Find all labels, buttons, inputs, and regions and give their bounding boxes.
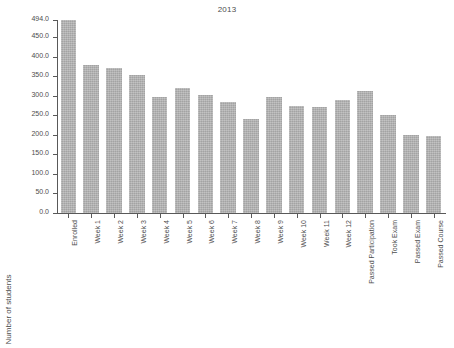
x-axis-label-slot: Week 10 bbox=[285, 220, 308, 312]
y-axis-tick: 0.0 bbox=[0, 213, 57, 214]
x-axis-tick bbox=[331, 214, 354, 219]
y-axis-tick-label: 494.0 bbox=[31, 15, 49, 22]
x-axis-tick bbox=[125, 214, 148, 219]
x-axis-tick bbox=[171, 214, 194, 219]
x-axis-tick bbox=[103, 214, 126, 219]
y-axis-tick-label: 50.0 bbox=[35, 188, 49, 195]
bar-series bbox=[57, 20, 445, 213]
x-axis-tick bbox=[57, 214, 80, 219]
bar[interactable] bbox=[426, 136, 442, 213]
y-axis-tick-label: 400.0 bbox=[31, 52, 49, 59]
bar[interactable] bbox=[403, 135, 419, 213]
plot-area bbox=[57, 20, 445, 213]
y-axis-tick-label: 350.0 bbox=[31, 71, 49, 78]
bar-slot bbox=[308, 20, 331, 213]
x-axis-label-slot: Week 2 bbox=[103, 220, 126, 312]
x-axis-tick-label: Week 10 bbox=[300, 220, 308, 248]
y-axis-tick: 350.0 bbox=[0, 76, 57, 77]
y-axis-tick: 200.0 bbox=[0, 135, 57, 136]
x-axis-tick bbox=[194, 214, 217, 219]
x-axis-label-slot: Week 1 bbox=[80, 220, 103, 312]
x-axis-tick bbox=[80, 214, 103, 219]
x-axis-tick-mark bbox=[114, 214, 115, 218]
y-axis-tick-label: 200.0 bbox=[31, 130, 49, 137]
y-axis-tick-label: 0.0 bbox=[39, 208, 49, 215]
bar-slot bbox=[217, 20, 240, 213]
y-axis-tick-label: 250.0 bbox=[31, 110, 49, 117]
bar-slot bbox=[103, 20, 126, 213]
x-axis-tick-label: Week 1 bbox=[94, 220, 102, 244]
x-axis-tick-label: Enrolled bbox=[71, 220, 79, 246]
bar-slot bbox=[171, 20, 194, 213]
x-axis-tick-mark bbox=[388, 214, 389, 218]
y-axis-tick: 494.0 bbox=[0, 20, 57, 21]
x-axis-tick bbox=[217, 214, 240, 219]
bar[interactable] bbox=[243, 119, 259, 213]
bar[interactable] bbox=[129, 75, 145, 213]
x-axis-tick-mark bbox=[228, 214, 229, 218]
bar[interactable] bbox=[335, 100, 351, 213]
x-axis-tick-mark bbox=[297, 214, 298, 218]
x-axis-tick-mark bbox=[183, 214, 184, 218]
bar-slot bbox=[240, 20, 263, 213]
x-axis-tick-label: Week 3 bbox=[140, 220, 148, 244]
y-axis-tick: 50.0 bbox=[0, 193, 57, 194]
x-axis-tick-label: Week 9 bbox=[277, 220, 285, 244]
x-axis-label-slot: Week 3 bbox=[125, 220, 148, 312]
bar[interactable] bbox=[61, 20, 77, 213]
x-axis-tick-label: Week 4 bbox=[163, 220, 171, 244]
x-axis-tick bbox=[399, 214, 422, 219]
bar-slot bbox=[57, 20, 80, 213]
bar-slot bbox=[377, 20, 400, 213]
bar-slot bbox=[80, 20, 103, 213]
x-axis-label-slot: Week 11 bbox=[308, 220, 331, 312]
x-axis-label-slot: Passed Course bbox=[422, 220, 445, 312]
y-axis-tick-group: 0.050.0100.0150.0200.0250.0300.0350.0400… bbox=[0, 0, 57, 315]
x-axis-label-slot: Week 4 bbox=[148, 220, 171, 312]
bar-slot bbox=[285, 20, 308, 213]
y-axis-tick: 300.0 bbox=[0, 96, 57, 97]
bar[interactable] bbox=[380, 115, 396, 213]
x-axis-tick-label: Week 2 bbox=[117, 220, 125, 244]
x-axis-label-slot: Week 7 bbox=[217, 220, 240, 312]
bar[interactable] bbox=[289, 106, 305, 213]
y-axis-tick-label: 150.0 bbox=[31, 149, 49, 156]
bar-slot bbox=[262, 20, 285, 213]
x-axis-tick bbox=[422, 214, 445, 219]
x-axis-label-slot: Passed Participation bbox=[354, 220, 377, 312]
bar[interactable] bbox=[312, 107, 328, 213]
bar-slot bbox=[399, 20, 422, 213]
x-axis-tick-label: Week 8 bbox=[254, 220, 262, 244]
x-axis-label-slot: Week 12 bbox=[331, 220, 354, 312]
x-axis-label-slot: Week 9 bbox=[262, 220, 285, 312]
x-axis-tick-label: Week 7 bbox=[231, 220, 239, 244]
bar[interactable] bbox=[266, 97, 282, 213]
x-axis-tick-label: Week 6 bbox=[208, 220, 216, 244]
bar-slot bbox=[331, 20, 354, 213]
x-axis-tick bbox=[285, 214, 308, 219]
chart-title: 2013 bbox=[0, 5, 454, 14]
bar-slot bbox=[148, 20, 171, 213]
x-axis-tick-mark bbox=[434, 214, 435, 218]
x-axis-label-slot: Week 5 bbox=[171, 220, 194, 312]
x-axis-label-group: EnrolledWeek 1Week 2Week 3Week 4Week 5We… bbox=[57, 220, 445, 312]
bar[interactable] bbox=[83, 65, 99, 213]
x-axis-tick bbox=[354, 214, 377, 219]
x-axis-tick bbox=[240, 214, 263, 219]
x-axis-tick-label: Took Exam bbox=[391, 220, 399, 255]
bar[interactable] bbox=[175, 88, 191, 213]
x-axis-tick-mark bbox=[91, 214, 92, 218]
x-axis-tick-mark bbox=[365, 214, 366, 218]
bar-slot bbox=[422, 20, 445, 213]
bar[interactable] bbox=[220, 102, 236, 213]
x-axis-tick-label: Week 11 bbox=[323, 220, 331, 247]
y-axis-tick: 100.0 bbox=[0, 174, 57, 175]
bar[interactable] bbox=[152, 97, 168, 213]
bar[interactable] bbox=[357, 91, 373, 213]
bar[interactable] bbox=[198, 95, 214, 213]
y-axis-tick-label: 450.0 bbox=[31, 32, 49, 39]
bar[interactable] bbox=[106, 68, 122, 213]
x-axis-tick-label: Week 5 bbox=[186, 220, 194, 244]
y-axis-tick-label: 100.0 bbox=[31, 169, 49, 176]
